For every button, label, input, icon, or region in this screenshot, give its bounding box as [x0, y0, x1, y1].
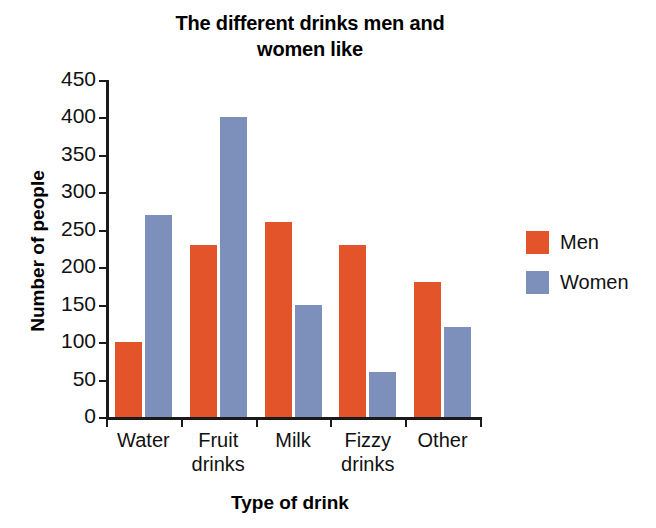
y-axis-line — [106, 80, 109, 418]
y-axis-tick-label: 100 — [36, 329, 96, 353]
bar-chart: The different drinks men and women like … — [0, 0, 656, 528]
y-axis-tick — [99, 305, 106, 307]
x-axis-label-fizzy-drinks: Fizzy drinks — [330, 428, 405, 476]
y-axis-tick-label: 200 — [36, 254, 96, 278]
y-axis-tick — [99, 155, 106, 157]
legend-label-men: Men — [560, 231, 599, 254]
y-axis-tick — [99, 230, 106, 232]
legend-swatch-men-icon — [526, 231, 549, 254]
x-axis-tick — [106, 418, 108, 427]
legend-swatch-women-icon — [526, 271, 549, 294]
y-axis-tick — [99, 380, 106, 382]
bar-fizzy-drinks-men[interactable] — [339, 245, 366, 417]
bar-water-women[interactable] — [145, 215, 172, 417]
legend-item-men[interactable]: Men — [526, 222, 629, 262]
y-axis-tick-label: 300 — [36, 179, 96, 203]
bar-milk-men[interactable] — [265, 222, 292, 417]
legend-label-women: Women — [560, 271, 629, 294]
y-axis-tick-label: 50 — [36, 367, 96, 391]
y-axis-tick — [99, 267, 106, 269]
bar-fruit-drinks-men[interactable] — [190, 245, 217, 417]
legend-item-women[interactable]: Women — [526, 262, 629, 302]
legend: Men Women — [526, 222, 629, 302]
x-axis-line — [106, 417, 482, 420]
x-axis-label-other: Other — [405, 428, 480, 452]
x-axis-tick — [405, 418, 407, 427]
y-axis-tick-label: 350 — [36, 142, 96, 166]
y-axis-tick-label: 0 — [36, 404, 96, 428]
plot-area: 050100150200250300350400450 WaterFruit d… — [106, 80, 480, 417]
y-axis-tick-label: 450 — [36, 67, 96, 91]
bar-other-women[interactable] — [444, 327, 471, 417]
bar-fruit-drinks-women[interactable] — [220, 117, 247, 417]
x-axis-label-fruit-drinks: Fruit drinks — [181, 428, 256, 476]
bar-milk-women[interactable] — [295, 305, 322, 417]
y-axis-tick — [99, 192, 106, 194]
y-axis-tick — [99, 342, 106, 344]
x-axis-tick — [330, 418, 332, 427]
y-axis-tick-label: 150 — [36, 292, 96, 316]
x-axis-tick — [181, 418, 183, 427]
y-axis-tick — [99, 417, 106, 419]
y-axis-tick-label: 400 — [36, 104, 96, 128]
chart-title: The different drinks men and women like — [110, 10, 510, 62]
y-axis-tick-label: 250 — [36, 217, 96, 241]
x-axis-title: Type of drink — [100, 492, 480, 514]
x-axis-label-milk: Milk — [256, 428, 331, 452]
x-axis-tick — [256, 418, 258, 427]
bar-other-men[interactable] — [414, 282, 441, 417]
y-axis-tick — [99, 80, 106, 82]
bar-fizzy-drinks-women[interactable] — [369, 372, 396, 417]
x-axis-tick — [480, 418, 482, 427]
bar-water-men[interactable] — [115, 342, 142, 417]
x-axis-label-water: Water — [106, 428, 181, 452]
y-axis-tick — [99, 117, 106, 119]
